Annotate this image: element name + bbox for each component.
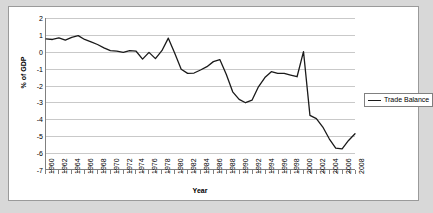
chart-legend: Trade Balance [364, 93, 433, 107]
x-axis-tick-label: 1996 [281, 158, 288, 174]
x-axis-tick-label: 1966 [87, 158, 94, 174]
x-axis-title: Year [45, 187, 355, 194]
plot-area [45, 18, 355, 170]
legend-item-label: Trade Balance [384, 96, 429, 104]
legend-line-swatch [368, 100, 381, 101]
x-axis-tick-label: 1972 [126, 158, 133, 174]
x-axis-tick-label: 1964 [74, 158, 81, 174]
y-axis-tick-label: -6 [37, 150, 43, 157]
x-axis-tick-label: 1978 [164, 158, 171, 174]
y-axis-tick-labels: 210-1-2-3-4-5-6-7 [23, 18, 43, 170]
y-axis-tick-label: -2 [37, 82, 43, 89]
x-axis-tick-label: 2006 [345, 158, 352, 174]
x-axis-tick-label: 2008 [358, 158, 365, 174]
y-axis-tick-label: -5 [37, 133, 43, 140]
x-axis-tick-label: 1974 [138, 158, 145, 174]
x-axis-tick-label: 2002 [319, 158, 326, 174]
y-axis-tick-label: -4 [37, 116, 43, 123]
x-axis-tick-label: 1970 [113, 158, 120, 174]
y-axis-tick-label: 2 [39, 15, 43, 22]
x-axis-tick-label: 1984 [203, 158, 210, 174]
x-axis-tick-label: 1990 [242, 158, 249, 174]
x-axis-tick-mark [355, 170, 356, 174]
y-axis-tick-label: -1 [37, 65, 43, 72]
x-axis-tick-label: 1962 [61, 158, 68, 174]
x-axis-tick-label: 1986 [216, 158, 223, 174]
y-axis-tick-label: 0 [39, 48, 43, 55]
y-axis-tick-label: -3 [37, 99, 43, 106]
chart-frame: % of GDP 210-1-2-3-4-5-6-7 1960196219641… [8, 6, 419, 201]
x-axis-tick-label: 1994 [268, 158, 275, 174]
x-axis-tick-label: 2000 [306, 158, 313, 174]
x-axis-tick-label: 1960 [48, 158, 55, 174]
x-axis-tick-label: 1982 [190, 158, 197, 174]
plot-wrapper: % of GDP 210-1-2-3-4-5-6-7 1960196219641… [9, 7, 420, 202]
x-axis-tick-label: 1992 [255, 158, 262, 174]
series-trade-balance [46, 18, 355, 169]
x-axis-tick-label: 1980 [177, 158, 184, 174]
y-axis-tick-label: 1 [39, 31, 43, 38]
y-axis-tick-label: -7 [37, 167, 43, 174]
x-axis-tick-label: 1998 [293, 158, 300, 174]
x-axis-tick-label: 1988 [229, 158, 236, 174]
x-axis-tick-label: 1968 [100, 158, 107, 174]
x-axis-tick-label: 2004 [332, 158, 339, 174]
series-line [46, 36, 355, 149]
x-axis-tick-label: 1976 [151, 158, 158, 174]
